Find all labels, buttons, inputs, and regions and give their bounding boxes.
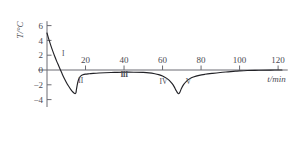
region-label-i: I bbox=[62, 49, 65, 58]
y-tick-label: −4 bbox=[33, 95, 43, 105]
y-tick-label: 6 bbox=[39, 21, 44, 31]
region-label-iii: III bbox=[120, 70, 128, 79]
x-tick-label: 100 bbox=[233, 55, 247, 65]
temperature-time-chart: 20406080100120 6420−2−4 IIIIIIIVV t/min … bbox=[0, 0, 297, 143]
y-tick-label: 0 bbox=[39, 65, 44, 75]
x-tick-label: 20 bbox=[81, 55, 91, 65]
x-axis-ticks bbox=[86, 66, 279, 71]
x-tick-label: 40 bbox=[120, 55, 130, 65]
x-axis-tick-labels: 20406080100120 bbox=[81, 55, 285, 65]
x-axis-title: t/min bbox=[267, 74, 286, 84]
chart-canvas: 20406080100120 6420−2−4 IIIIIIIVV t/min … bbox=[0, 0, 297, 143]
region-label-v: V bbox=[186, 77, 192, 86]
y-tick-label: 2 bbox=[39, 50, 44, 60]
region-label-ii: II bbox=[78, 76, 83, 85]
y-tick-label: −2 bbox=[33, 80, 43, 90]
y-tick-label: 4 bbox=[39, 36, 44, 46]
x-tick-label: 80 bbox=[197, 55, 207, 65]
x-tick-label: 120 bbox=[271, 55, 285, 65]
y-axis-tick-labels: 6420−2−4 bbox=[33, 21, 43, 105]
x-tick-label: 60 bbox=[158, 55, 168, 65]
region-label-iv: IV bbox=[160, 77, 168, 86]
y-axis-title: T/°C bbox=[15, 20, 25, 38]
